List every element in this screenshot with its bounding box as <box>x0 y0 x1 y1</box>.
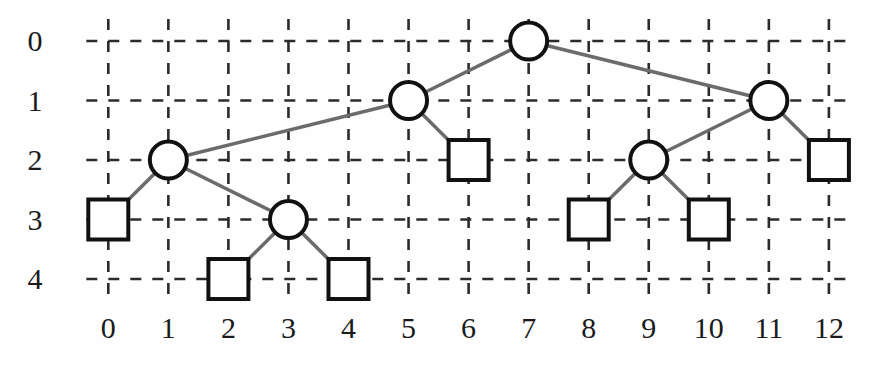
tree-node-leaf-square[interactable] <box>88 200 128 240</box>
tree-node-leaf-square[interactable] <box>208 259 248 299</box>
tree-node-leaf-square[interactable] <box>569 200 609 240</box>
tree-node-leaf-square[interactable] <box>689 200 729 240</box>
tree-node-internal-circle[interactable] <box>750 82 787 119</box>
y-axis-tick-labels: 01234 <box>28 24 43 295</box>
x-tick-label: 6 <box>461 311 476 344</box>
x-axis-tick-labels: 0123456789101112 <box>101 311 844 344</box>
x-tick-label: 7 <box>521 311 536 344</box>
x-tick-label: 0 <box>101 311 116 344</box>
x-tick-label: 12 <box>814 311 844 344</box>
tree-edge <box>662 173 689 200</box>
x-tick-label: 2 <box>221 311 236 344</box>
tree-edge <box>422 114 449 141</box>
y-tick-label: 0 <box>28 24 43 57</box>
tree-node-internal-circle[interactable] <box>630 142 667 179</box>
x-tick-label: 10 <box>694 311 724 344</box>
y-tick-label: 3 <box>28 203 43 236</box>
tree-node-leaf-square[interactable] <box>449 140 489 180</box>
x-tick-label: 8 <box>581 311 596 344</box>
tree-node-internal-circle[interactable] <box>390 82 427 119</box>
y-tick-label: 2 <box>28 143 43 176</box>
x-tick-label: 3 <box>281 311 296 344</box>
x-tick-label: 11 <box>754 311 783 344</box>
tree-node-internal-circle[interactable] <box>270 201 307 238</box>
tree-diagram-svg: 0123456789101112 01234 <box>0 0 874 376</box>
tree-node-leaf-square[interactable] <box>809 140 849 180</box>
tree-edge <box>609 173 636 200</box>
tree-edge <box>248 233 275 260</box>
figure-canvas: 0123456789101112 01234 <box>0 0 874 376</box>
tree-node-internal-circle[interactable] <box>150 142 187 179</box>
x-tick-label: 5 <box>401 311 416 344</box>
tree-node-leaf-square[interactable] <box>329 259 369 299</box>
x-tick-label: 4 <box>341 311 356 344</box>
tree-edge <box>302 233 329 260</box>
y-tick-label: 1 <box>28 84 43 117</box>
x-tick-label: 1 <box>161 311 176 344</box>
y-tick-label: 4 <box>28 262 43 295</box>
tree-edge <box>782 114 809 141</box>
x-tick-label: 9 <box>641 311 656 344</box>
tree-node-internal-circle[interactable] <box>510 23 547 60</box>
tree-edge <box>128 173 155 200</box>
